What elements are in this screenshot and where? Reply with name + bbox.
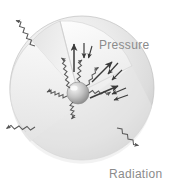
pressure-label: Pressure [99, 39, 149, 51]
stellar-core [67, 82, 89, 104]
star-illustration [0, 0, 174, 189]
stellar-structure-figure: Pressure Radiation [0, 0, 174, 189]
radiation-label: Radiation [109, 168, 162, 180]
